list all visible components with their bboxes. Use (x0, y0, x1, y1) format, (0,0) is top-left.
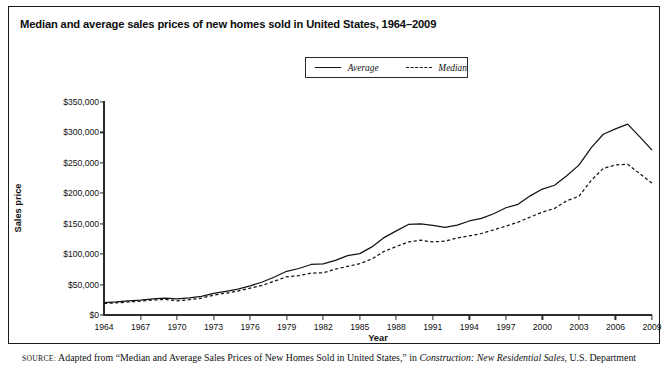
x-tick-mark (176, 315, 177, 320)
x-tick-label: 1979 (277, 322, 296, 332)
y-tick-mark (100, 284, 105, 285)
x-tick-label: 1997 (496, 322, 515, 332)
x-tick-label: 2000 (533, 322, 552, 332)
x-tick-label: 1970 (168, 322, 187, 332)
solid-line-swatch (315, 64, 341, 71)
x-tick-label: 1991 (423, 322, 442, 332)
x-tick-mark (250, 315, 251, 320)
source-text-part1: Adapted from “Median and Average Sales P… (56, 352, 419, 363)
chart-lines (104, 102, 652, 315)
plot-area: $0$50,000$100,000$150,000$200,000$250,00… (104, 102, 652, 315)
x-tick-mark (432, 315, 433, 320)
y-tick-mark (100, 254, 105, 255)
source-label: SOURCE: (22, 354, 56, 363)
x-tick-mark (578, 315, 579, 320)
x-axis-label: Year (368, 333, 388, 343)
x-tick-label: 1967 (131, 322, 150, 332)
series-line-average (104, 124, 652, 302)
y-tick-label: $200,000 (63, 188, 99, 198)
source-text-part2: , U.S. Department (564, 352, 636, 363)
y-tick-label: $0 (89, 310, 99, 320)
x-tick-mark (651, 315, 652, 320)
y-tick-mark (100, 162, 105, 163)
y-tick-mark (100, 314, 105, 315)
y-tick-mark (100, 132, 105, 133)
page-title: Median and average sales prices of new h… (20, 18, 620, 30)
x-tick-label: 2006 (606, 322, 625, 332)
y-tick-mark (100, 101, 105, 102)
source-note: SOURCE: Adapted from “Median and Average… (22, 352, 662, 363)
x-tick-mark (323, 315, 324, 320)
x-tick-label: 1985 (350, 322, 369, 332)
x-tick-mark (286, 315, 287, 320)
x-tick-label: 2003 (569, 322, 588, 332)
legend-item-average: Average (348, 63, 379, 73)
x-tick-mark (359, 315, 360, 320)
x-tick-mark (505, 315, 506, 320)
source-publication-title: Construction: New Residential Sales (419, 352, 564, 363)
y-tick-label: $250,000 (63, 158, 99, 168)
x-tick-mark (213, 315, 214, 320)
series-line-median (104, 164, 652, 303)
x-tick-label: 1994 (460, 322, 479, 332)
y-tick-label: $150,000 (63, 219, 99, 229)
y-axis-label: Sales price (13, 183, 23, 232)
y-tick-label: $350,000 (63, 97, 99, 107)
x-tick-mark (396, 315, 397, 320)
x-tick-label: 1964 (94, 322, 113, 332)
x-tick-mark (140, 315, 141, 320)
figure-page: Median and average sales prices of new h… (0, 0, 669, 371)
y-tick-mark (100, 223, 105, 224)
legend-item-median: Median (438, 63, 467, 73)
y-tick-label: $300,000 (63, 127, 99, 137)
x-tick-label: 1973 (204, 322, 223, 332)
dashed-line-swatch (406, 64, 432, 71)
y-tick-label: $100,000 (63, 249, 99, 259)
x-tick-mark (542, 315, 543, 320)
x-tick-label: 1976 (241, 322, 260, 332)
y-tick-label: $50,000 (68, 280, 99, 290)
x-tick-label: 2009 (642, 322, 661, 332)
x-tick-label: 1982 (314, 322, 333, 332)
y-tick-mark (100, 193, 105, 194)
x-tick-mark (469, 315, 470, 320)
chart-legend: Average Median (305, 57, 468, 78)
x-tick-mark (615, 315, 616, 320)
x-tick-label: 1988 (387, 322, 406, 332)
